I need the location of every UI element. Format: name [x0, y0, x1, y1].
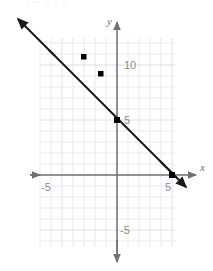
- line-segment: [49, 50, 177, 178]
- data-point: [169, 172, 175, 178]
- y-tick-label-neg5: -5: [120, 224, 130, 236]
- y-tick-label-5: 5: [124, 114, 130, 126]
- coordinate-plane: x y -5 5 10 5 -5: [0, 0, 213, 271]
- x-axis-label: x: [199, 161, 205, 173]
- line-arrowhead-upper-left: [18, 19, 55, 56]
- graph-container: y = -x + 5: [0, 0, 213, 271]
- y-tick-label-10: 10: [124, 59, 136, 71]
- clipped-caption: y = -x + 5: [26, 0, 68, 7]
- x-tick-label-5: 5: [165, 181, 171, 193]
- data-point: [114, 117, 120, 123]
- grid-lines: [40, 38, 175, 247]
- data-point: [98, 71, 104, 77]
- x-tick-label-neg5: -5: [41, 181, 51, 193]
- y-axis-label: y: [106, 15, 112, 27]
- data-point: [81, 54, 87, 60]
